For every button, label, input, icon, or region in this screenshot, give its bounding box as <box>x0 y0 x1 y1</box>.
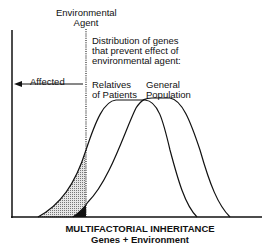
arrow-left-icon <box>14 81 22 87</box>
affected-label: Affected <box>30 77 65 87</box>
threshold-label-line2: Agent <box>56 18 116 28</box>
relatives-affected-area <box>38 150 86 217</box>
general-population-curve <box>73 98 230 217</box>
relatives-label-line2: of Patients <box>92 90 137 100</box>
general-label-line2: Population <box>146 90 191 100</box>
diagram-subtitle: Genes + Environment <box>40 235 240 245</box>
caption-line3: environmental agent: <box>92 56 181 66</box>
diagram-title: MULTIFACTORIAL INHERITANCE <box>40 224 240 234</box>
